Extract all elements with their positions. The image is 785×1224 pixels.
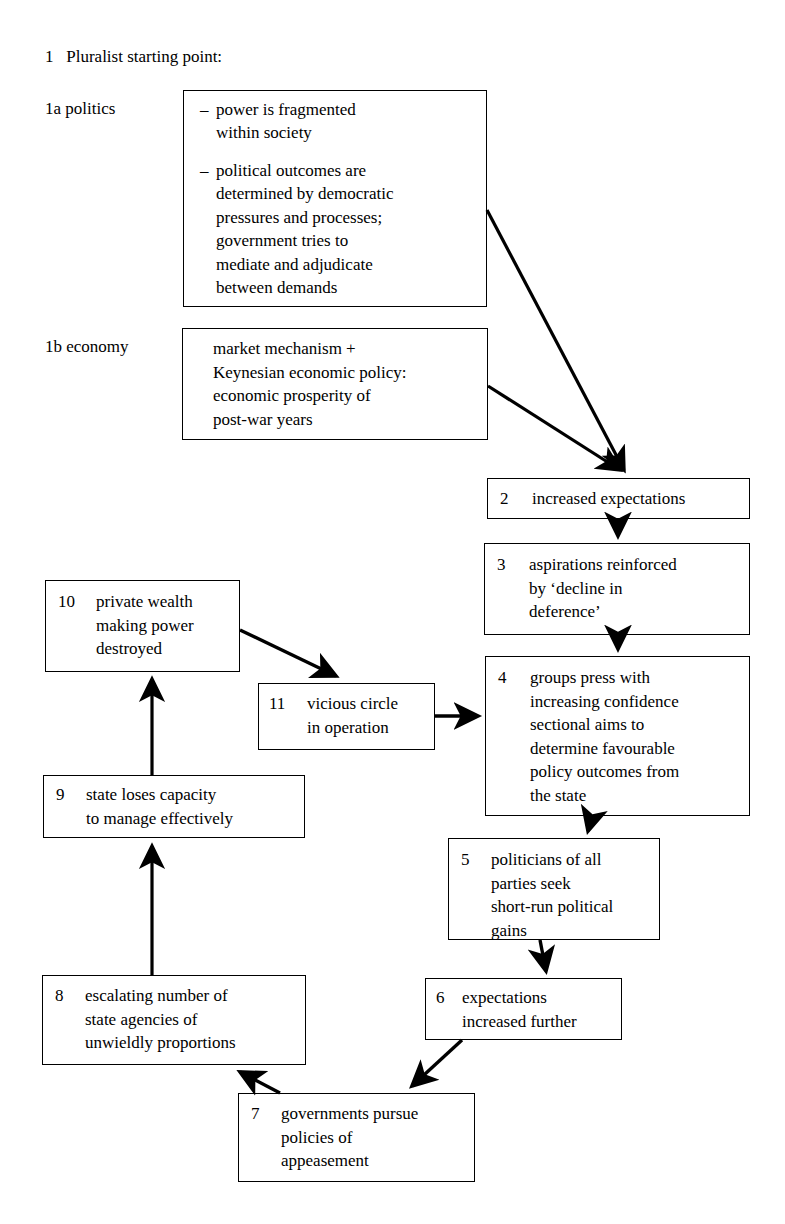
box-1b-text: market mechanism + Keynesian economic po… — [213, 337, 473, 431]
dash-icon: – — [200, 98, 216, 122]
box-9-state-loses-capacity[interactable]: 9 state loses capacity to manage effecti… — [43, 775, 305, 838]
box-11-text: vicious circle in operation — [307, 692, 428, 739]
label-1a-politics: 1a politics — [45, 97, 115, 120]
list-item: – political outcomes are determined by d… — [200, 159, 472, 300]
box-8-number: 8 — [55, 984, 85, 1008]
arrow-1a-to-2 — [487, 210, 624, 470]
arrow-5-to-6 — [540, 940, 546, 971]
list-item: – power is fragmented within society — [200, 98, 472, 145]
box-11-vicious-circle[interactable]: 11 vicious circle in operation — [258, 683, 435, 750]
dash-icon: – — [200, 159, 216, 183]
box-2-text: increased expectations — [532, 487, 739, 511]
box-9-number: 9 — [56, 783, 86, 807]
box-7-text: governments pursue policies of appeaseme… — [281, 1102, 468, 1173]
box-4-text: groups press with increasing confidence … — [530, 666, 741, 807]
box-6-expectations-increased-further[interactable]: 6 expectations increased further — [425, 978, 622, 1040]
bullet-text: power is fragmented within society — [216, 98, 472, 145]
box-10-private-wealth-destroyed[interactable]: 10 private wealth making power destroyed — [45, 580, 240, 672]
box-1a-politics[interactable]: – power is fragmented within society – p… — [183, 90, 487, 307]
arrow-7-to-8 — [240, 1072, 280, 1093]
box-1b-economy[interactable]: market mechanism + Keynesian economic po… — [182, 328, 488, 440]
box-3-text: aspirations reinforced by ‘decline in de… — [529, 553, 741, 624]
arrow-1b-to-2 — [488, 386, 620, 470]
arrow-4-to-5 — [588, 816, 592, 831]
box-8-escalating-state-agencies[interactable]: 8 escalating number of state agencies of… — [42, 975, 306, 1065]
box-6-number: 6 — [436, 986, 462, 1010]
box-1a-bullet-list: – power is fragmented within society – p… — [200, 98, 472, 300]
box-2-increased-expectations[interactable]: 2 increased expectations — [487, 478, 750, 519]
box-8-text: escalating number of state agencies of u… — [85, 984, 299, 1055]
box-10-text: private wealth making power destroyed — [96, 590, 233, 661]
box-5-politicians-seek-gains[interactable]: 5 politicians of all parties seek short-… — [448, 838, 660, 940]
box-7-number: 7 — [251, 1102, 281, 1126]
box-9-text: state loses capacity to manage effective… — [86, 783, 298, 830]
box-11-number: 11 — [269, 692, 307, 716]
box-3-aspirations-reinforced[interactable]: 3 aspirations reinforced by ‘decline in … — [484, 543, 750, 635]
bullet-text: political outcomes are determined by dem… — [216, 159, 472, 300]
box-6-text: expectations increased further — [462, 986, 615, 1033]
box-3-number: 3 — [497, 553, 529, 577]
box-10-number: 10 — [58, 590, 96, 614]
box-5-text: politicians of all parties seek short-ru… — [491, 848, 653, 942]
arrow-6-to-7 — [412, 1040, 462, 1086]
box-7-governments-pursue-appeasement[interactable]: 7 governments pursue policies of appease… — [238, 1093, 475, 1182]
box-4-groups-press[interactable]: 4 groups press with increasing confidenc… — [485, 656, 750, 816]
page-title: 1 Pluralist starting point: — [45, 45, 222, 68]
label-1b-economy: 1b economy — [45, 335, 129, 358]
arrow-10-to-11 — [240, 630, 336, 676]
box-2-number: 2 — [500, 487, 532, 511]
diagram-canvas: 1 Pluralist starting point: 1a politics … — [0, 0, 785, 1224]
box-4-number: 4 — [498, 666, 530, 690]
box-5-number: 5 — [461, 848, 491, 872]
